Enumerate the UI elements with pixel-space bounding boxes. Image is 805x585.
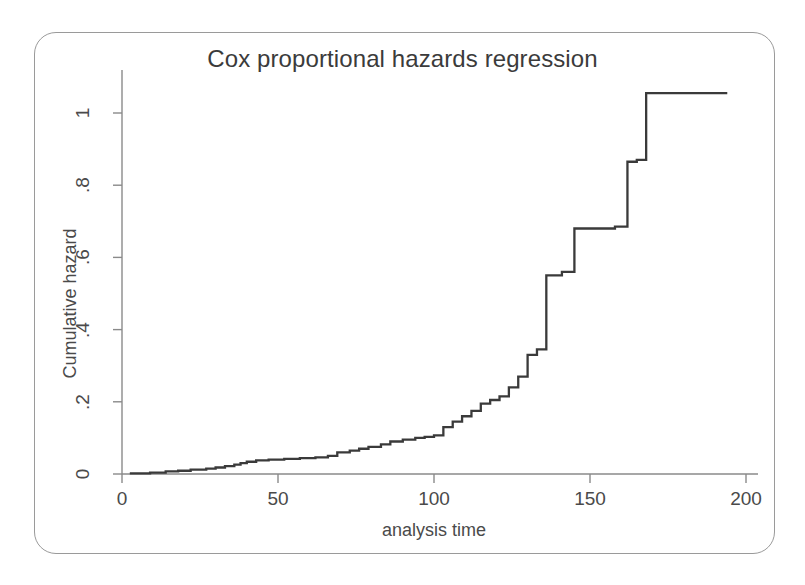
y-tick-label: 1: [72, 88, 94, 138]
y-axis-title: Cumulative hazard: [60, 154, 81, 454]
x-tick-marks: [122, 474, 746, 483]
x-tick-label: 0: [92, 488, 152, 510]
y-tick-marks: [113, 113, 122, 474]
cumulative-hazard-step-curve: [130, 93, 727, 473]
x-tick-label: 100: [404, 488, 464, 510]
x-axis-title: analysis time: [122, 520, 746, 541]
y-tick-label: 0: [72, 449, 94, 499]
x-tick-label: 200: [716, 488, 776, 510]
figure-root: Cox proportional hazards regression 0501…: [0, 0, 805, 585]
x-tick-label: 150: [560, 488, 620, 510]
axes-group: [122, 70, 758, 474]
x-tick-label: 50: [248, 488, 308, 510]
